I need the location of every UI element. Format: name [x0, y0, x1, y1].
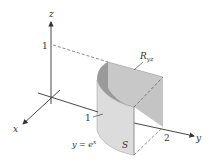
x-axis-label: x [13, 124, 18, 134]
x-axis [23, 90, 60, 124]
leader-ryz [134, 62, 143, 70]
diagram-canvas: z 1 x y 1 2 S Ryz y = ex [0, 0, 209, 167]
curve-equation: y = ex [71, 138, 97, 149]
dash-z1 [53, 45, 108, 62]
y-tick-two: 2 [164, 133, 170, 143]
z-axis-label: z [48, 9, 54, 19]
z-tick-one: 1 [42, 41, 48, 51]
dash-bottom-diag [134, 127, 163, 155]
x-tick-one: 1 [85, 113, 91, 123]
y-axis-label: y [195, 133, 202, 143]
surface-label: S [122, 140, 128, 150]
region-label: Ryz [139, 51, 154, 63]
